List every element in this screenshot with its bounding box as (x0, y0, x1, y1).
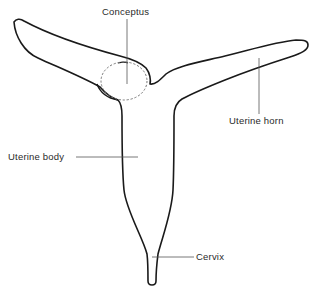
uterine-body-label: Uterine body (8, 151, 64, 162)
conceptus-label: Conceptus (102, 6, 149, 17)
uterine-horn-label: Uterine horn (229, 115, 284, 126)
cervix-label: Cervix (196, 251, 224, 262)
uterus-diagram (0, 0, 321, 290)
